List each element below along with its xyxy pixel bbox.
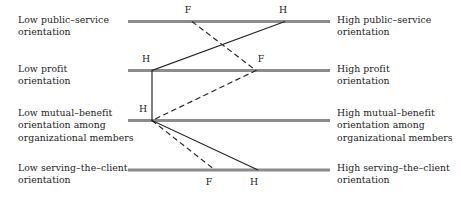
axis-label-right-serving-the-client: High serving–the–client orientation <box>337 162 450 187</box>
axis-label-right-public-service: High public–service orientation <box>337 14 431 39</box>
series-h-path <box>152 22 285 171</box>
series-line-h <box>152 22 285 171</box>
axis-lines <box>128 22 330 171</box>
axis-label-right-profit: High profit orientation <box>337 63 390 88</box>
series-f-path <box>152 22 256 171</box>
profile-diagram: Low public–service orientation Low profi… <box>0 0 461 198</box>
axis-label-left-mutual-benefit: Low mutual–benefit orientation among org… <box>18 107 134 144</box>
point-label-f-public-service: F <box>181 5 195 15</box>
axis-label-left-serving-the-client: Low serving–the–client orientation <box>18 162 128 187</box>
point-label-h-profit: H <box>139 54 153 64</box>
series-line-f <box>152 22 256 171</box>
axis-label-left-public-service: Low public–service orientation <box>18 14 109 39</box>
point-label-h-mutual-benefit: H <box>136 104 150 114</box>
point-label-f-profit: F <box>254 54 268 64</box>
axis-label-left-profit: Low profit orientation <box>18 63 71 88</box>
point-label-h-public-service: H <box>276 5 290 15</box>
point-label-h-serving-the-client: H <box>247 177 261 187</box>
point-label-f-serving-the-client: F <box>202 177 216 187</box>
axis-label-right-mutual-benefit: High mutual–benefit orientation among or… <box>337 107 453 144</box>
